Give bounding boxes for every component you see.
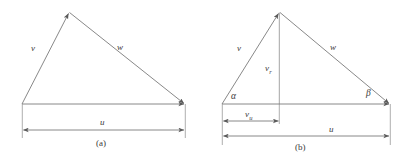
panel-b-label-vr: vr: [265, 64, 272, 75]
panel-a-caption: (a): [96, 139, 106, 148]
figure-container: v w u (a) v w vr vu α β u (b): [0, 0, 407, 161]
panel-b-side-w-line: [280, 13, 389, 104]
panel-b-label-vr-subscript: r: [269, 68, 272, 75]
panel-b-caption: (b): [295, 143, 306, 152]
panel-b-graphic: [222, 13, 390, 146]
panel-a-side-v-line: [22, 14, 69, 105]
panel-b-label-beta: β: [366, 89, 371, 99]
panel-b-label-alpha: α: [231, 92, 236, 102]
panel-b-label-v: v: [237, 44, 241, 53]
figure-vector-graphic: [0, 0, 407, 161]
panel-b-label-vu: vu: [245, 110, 253, 121]
panel-a-side-w-line: [70, 13, 185, 104]
panel-a-label-v: v: [31, 44, 35, 53]
panel-b-label-u: u: [329, 125, 334, 134]
panel-b-label-w: w: [330, 43, 336, 52]
panel-b-label-vu-subscript: u: [249, 114, 252, 121]
panel-a-label-u: u: [100, 118, 105, 127]
panel-a-label-w: w: [117, 43, 123, 52]
